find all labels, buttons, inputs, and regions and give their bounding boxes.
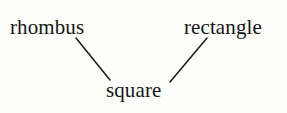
diagram-canvas: rhombus rectangle square xyxy=(0,0,287,113)
node-label-square: square xyxy=(106,80,161,101)
edge-rhombus-to-square xyxy=(76,38,110,80)
edge-rectangle-to-square xyxy=(170,38,207,82)
node-label-rectangle: rectangle xyxy=(184,17,262,38)
node-label-rhombus: rhombus xyxy=(10,17,84,38)
